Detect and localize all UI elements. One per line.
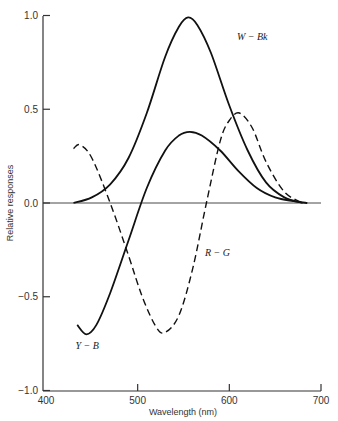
y-tick-label: 0.0 (24, 198, 38, 209)
series-y-b-line (77, 132, 307, 334)
curve-label: R − G (204, 247, 230, 258)
y-tick-label: −1.0 (18, 385, 38, 396)
y-ticks (43, 16, 50, 391)
y-tick-labels: 1.00.50.0−0.5−1.0 (18, 10, 38, 396)
y-axis-title: Relative responses (5, 164, 15, 241)
x-axis-title: Wavelength (nm) (149, 407, 217, 417)
curve-label: W − Bk (237, 31, 268, 42)
x-tick-label: 400 (38, 395, 55, 406)
x-tick-label: 700 (313, 395, 330, 406)
x-tick-labels: 400500600700 (38, 395, 330, 406)
y-tick-label: 1.0 (24, 10, 38, 21)
x-tick-label: 500 (129, 395, 146, 406)
x-tick-label: 600 (221, 395, 238, 406)
chart: 1.00.50.0−0.5−1.0 400500600700 Wavelengt… (0, 0, 338, 421)
y-tick-label: 0.5 (24, 104, 38, 115)
curve-labels: W − BkR − GY − B (76, 31, 269, 351)
y-tick-label: −0.5 (18, 291, 38, 302)
series-w-bk-line (74, 17, 303, 203)
x-ticks (138, 384, 321, 391)
series-group (74, 17, 308, 334)
curve-label: Y − B (76, 340, 99, 351)
